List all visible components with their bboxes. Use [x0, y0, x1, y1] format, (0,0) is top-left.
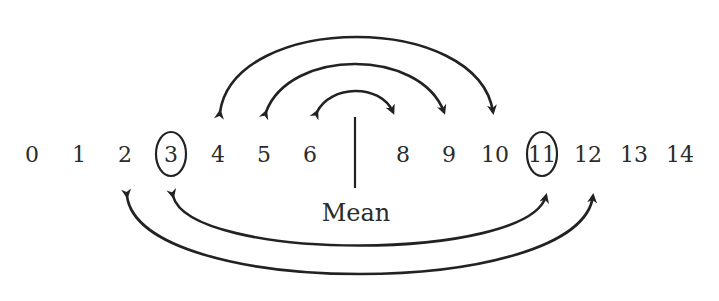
number-line: 0 1 2 3 4 5 6 8 9 10 11 12 13 14	[25, 142, 694, 167]
number-9: 9	[442, 142, 456, 167]
number-13: 13	[620, 142, 648, 167]
mean-label: Mean	[322, 199, 391, 227]
arrow-5-to-9-icon	[266, 64, 444, 112]
number-6: 6	[303, 142, 317, 167]
number-10: 10	[481, 142, 509, 167]
number-14: 14	[666, 142, 694, 167]
number-5: 5	[257, 142, 271, 167]
number-2: 2	[118, 142, 132, 167]
number-11: 11	[528, 142, 556, 167]
number-0: 0	[25, 142, 39, 167]
number-3: 3	[164, 142, 178, 167]
number-4: 4	[211, 142, 225, 167]
mean-deviation-diagram: 0 1 2 3 4 5 6 8 9 10 11 12 13 14 Mean	[0, 0, 719, 301]
arrow-6-to-8-icon	[317, 91, 393, 112]
number-12: 12	[574, 142, 602, 167]
arrow-4-to-10-icon	[220, 37, 493, 112]
number-8: 8	[396, 142, 410, 167]
number-1: 1	[72, 142, 86, 167]
